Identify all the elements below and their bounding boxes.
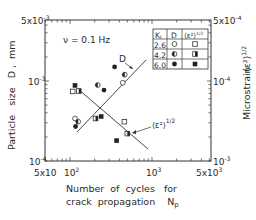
x-axis-label-line2: crack propagation Np — [66, 196, 179, 209]
D-fit-line — [77, 60, 146, 132]
filled-circle-icon — [112, 65, 117, 70]
half-circle-icon — [76, 119, 81, 124]
open-square-icon — [193, 42, 198, 47]
legend-table: KI D ⟨ε²⟩1/2 2.6 4.2 6.0 — [153, 29, 208, 70]
half-circle-icon — [172, 52, 177, 57]
y-axis-right-label: Microstrain — [241, 67, 252, 120]
half-circle-icon — [95, 83, 100, 88]
filled-circle-icon — [102, 88, 107, 93]
x-tick-50: 5x10 — [34, 168, 57, 178]
half-square-icon — [93, 116, 98, 121]
filled-square-icon — [99, 114, 104, 119]
D-line-label: D — [119, 54, 126, 64]
open-circle-icon — [120, 80, 125, 85]
eps-line-label: ⟨ε²⟩1/2 — [152, 117, 176, 130]
filled-square-icon — [114, 138, 119, 143]
filled-square-icon — [73, 83, 78, 88]
half-square-icon — [125, 131, 130, 136]
filled-circle-icon — [73, 124, 78, 129]
y-left-tick-mid: 10-3 — [28, 75, 46, 87]
arrowhead-icon — [132, 130, 136, 134]
x-tick-1000: 103 — [146, 166, 161, 178]
half-square-icon — [76, 89, 81, 94]
open-square-icon — [122, 119, 127, 124]
eps-fit-line — [78, 89, 148, 149]
y-axis-right-symbol: ⟨ε²⟩1/2 — [240, 46, 252, 72]
half-circle-icon — [122, 72, 127, 77]
y-right-tick-top: 5x10-4 — [213, 14, 242, 26]
y-right-tick-mid: 10-4 — [213, 75, 231, 87]
x-tick-100: 102 — [64, 166, 79, 178]
y-axis-left-label: Particle size D , mm — [6, 40, 17, 150]
filled-square-icon — [193, 62, 198, 67]
legend-K-6.0: 6.0 — [154, 61, 166, 70]
half-square-icon — [193, 52, 198, 57]
frequency-annotation: ν = 0.1 Hz — [63, 35, 110, 45]
data-markers — [70, 65, 129, 143]
open-circle-icon — [172, 42, 177, 47]
y-left-tick-bottom: 10-4 — [29, 155, 47, 167]
x-tick-5000: 5x103 — [196, 166, 223, 178]
legend-K-2.6: 2.6 — [154, 41, 166, 50]
open-square-icon — [70, 89, 75, 94]
chart-figure: 5x10-3 10-3 10-4 5x10-4 10-4 10-3 5x10 1… — [0, 0, 256, 220]
filled-circle-icon — [172, 62, 177, 67]
legend-header-D: D — [171, 31, 177, 40]
legend-K-4.2: 4.2 — [154, 51, 166, 60]
x-axis-label-line1: Number of cycles for — [66, 183, 177, 194]
